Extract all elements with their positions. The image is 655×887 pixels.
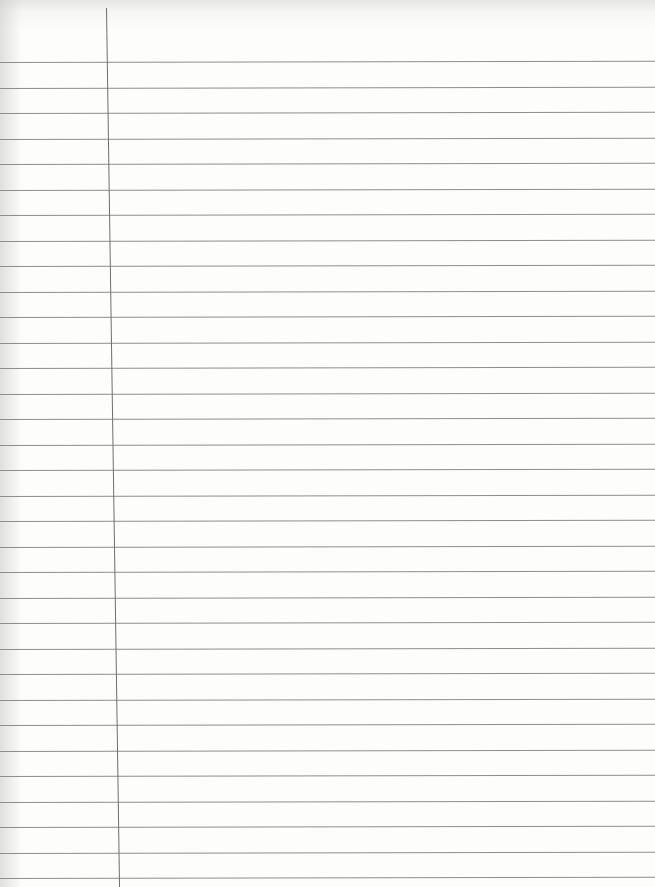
ruled-line — [0, 188, 655, 190]
ruled-line — [0, 545, 655, 547]
ruled-line — [0, 673, 655, 675]
ruled-line — [0, 698, 655, 700]
lined-paper — [0, 0, 655, 887]
ruled-line — [0, 367, 655, 369]
ruled-line — [0, 494, 655, 496]
ruled-line — [0, 647, 655, 649]
ruled-line — [0, 749, 655, 751]
ruled-line — [0, 469, 655, 471]
ruled-line — [0, 214, 655, 216]
ruled-line — [0, 571, 655, 573]
ruled-line — [0, 596, 655, 598]
margin-line — [106, 8, 120, 887]
ruled-line — [0, 86, 655, 88]
ruled-line — [0, 316, 655, 318]
ruled-line — [0, 724, 655, 726]
ruled-line — [0, 239, 655, 241]
page-edge-shadow — [0, 0, 22, 887]
ruled-line — [0, 290, 655, 292]
ruled-line — [0, 622, 655, 624]
ruled-line — [0, 877, 655, 879]
ruled-line — [0, 851, 655, 853]
ruled-line — [0, 61, 655, 63]
ruled-line — [0, 112, 655, 114]
ruled-line — [0, 443, 655, 445]
ruled-line — [0, 826, 655, 828]
ruled-line — [0, 800, 655, 802]
ruled-line — [0, 520, 655, 522]
ruled-line — [0, 265, 655, 267]
ruled-line — [0, 163, 655, 165]
ruled-line — [0, 392, 655, 394]
ruled-line — [0, 137, 655, 139]
ruled-line — [0, 775, 655, 777]
ruled-line — [0, 341, 655, 343]
ruled-line — [0, 418, 655, 420]
